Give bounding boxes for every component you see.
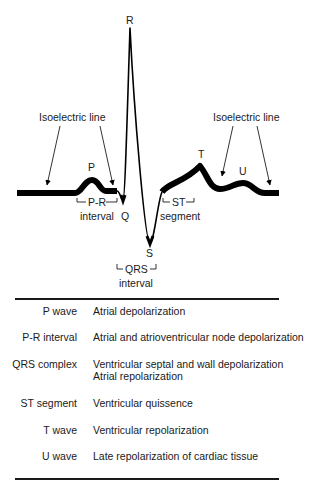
ecg-trace-st-t-u (162, 166, 279, 193)
desc-st-segment: Ventricular quissence (93, 397, 193, 409)
label-q: Q (121, 210, 129, 222)
pr-interval-label-2: interval (80, 210, 114, 222)
ecg-trace-baseline-p (17, 180, 117, 193)
term-p-wave: P wave (43, 305, 77, 317)
term-qrs-complex: QRS complex (12, 358, 77, 370)
term-u-wave: U wave (42, 450, 77, 462)
term-pr-interval: P-R interval (22, 331, 77, 343)
desc-qrs-complex-1: Ventricular septal and wall depolarizati… (93, 358, 283, 370)
qrs-interval-label-2: interval (119, 277, 153, 289)
desc-qrs-complex-2: Atrial repolarization (93, 370, 183, 382)
ecg-trace-s-point (147, 236, 153, 244)
ecg-diagram: R P T U Q S Isoelectric line Isoelectric… (0, 0, 309, 290)
isoelectric-arrow-right-2 (257, 126, 270, 185)
label-r: R (126, 14, 134, 26)
label-t: T (198, 148, 205, 160)
desc-pr-interval: Atrial and atrioventricular node depolar… (93, 331, 304, 343)
isoelectric-label-right: Isoelectric line (213, 111, 280, 123)
qrs-interval-label-1: QRS (125, 263, 148, 275)
desc-t-wave: Ventricular repolarization (93, 424, 209, 436)
desc-p-wave: Atrial depolarization (93, 305, 185, 317)
term-st-segment: ST segment (21, 397, 77, 409)
label-s: S (146, 247, 153, 259)
st-segment-label-2: segment (160, 210, 200, 222)
isoelectric-arrow-right-1 (222, 126, 233, 176)
label-p: P (88, 161, 95, 173)
desc-u-wave: Late repolarization of cardiac tissue (93, 450, 258, 462)
st-segment-label-1: ST (172, 196, 186, 208)
isoelectric-label-left: Isoelectric line (39, 111, 106, 123)
table-bottom-divider (15, 478, 279, 480)
table-top-divider (15, 298, 279, 300)
label-u: U (239, 165, 247, 177)
isoelectric-arrow-left-2 (100, 126, 113, 185)
pr-interval-label-1: P-R (88, 196, 107, 208)
ecg-trace-q-point (121, 195, 125, 201)
isoelectric-arrow-left-1 (47, 126, 60, 185)
term-t-wave: T wave (43, 424, 77, 436)
